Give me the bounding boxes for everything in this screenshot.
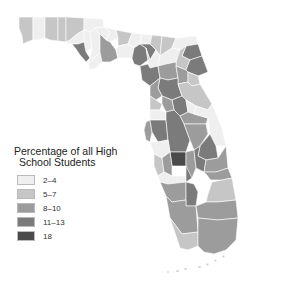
legend-item-2-4: 2–4 — [14, 173, 144, 187]
florida-keys — [167, 271, 169, 273]
legend-swatch — [17, 175, 35, 185]
map-legend: Percentage of all High School Students 2… — [14, 146, 144, 243]
legend-item-8-10: 8–10 — [14, 201, 144, 215]
legend-label: 11–13 — [43, 218, 65, 227]
legend-label: 5–7 — [43, 190, 56, 199]
legend-label: 18 — [43, 232, 52, 241]
legend-swatch — [17, 231, 35, 241]
legend-item-11-13: 11–13 — [14, 215, 144, 229]
county-hardee — [170, 152, 186, 166]
florida-keys — [198, 266, 201, 268]
county-broward — [196, 200, 238, 220]
county-lee — [160, 182, 186, 202]
county-hillsborough — [150, 120, 168, 142]
florida-keys — [214, 259, 217, 262]
legend-title: Percentage of all High School Students — [14, 146, 144, 168]
legend-swatch — [17, 217, 35, 227]
florida-keys — [222, 255, 225, 258]
legend-swatch — [17, 203, 35, 213]
legend-item-18: 18 — [14, 229, 144, 243]
legend-label: 8–10 — [43, 204, 61, 213]
county-santa-rosa — [33, 17, 45, 40]
county-miami-dade — [198, 218, 238, 254]
county-pasco — [150, 110, 166, 120]
county-escambia — [19, 17, 33, 44]
county-okaloosa — [45, 17, 58, 41]
legend-item-5-7: 5–7 — [14, 187, 144, 201]
legend-items: 2–4 5–7 8–10 11–13 18 — [14, 173, 144, 243]
county-walton — [58, 17, 66, 42]
legend-swatch — [17, 189, 35, 199]
florida-choropleth-map — [0, 0, 282, 288]
florida-keys — [176, 270, 179, 272]
legend-title-line2: School Students — [14, 157, 144, 168]
florida-keys — [184, 268, 187, 270]
florida-keys — [206, 263, 209, 266]
legend-label: 2–4 — [43, 176, 56, 185]
